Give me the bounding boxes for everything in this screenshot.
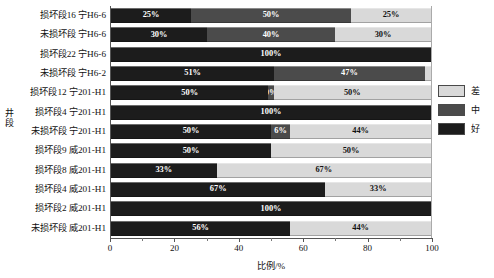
- bar-row[interactable]: 100%: [111, 199, 431, 218]
- bar-segment-label: 100%: [261, 205, 282, 213]
- plot-area: 25%50%25%30%40%30%100%51%47%2%50%0%50%10…: [110, 6, 432, 238]
- y-axis-tick-labels: 损坏段16 宁H6-6未损坏段 宁H6-6损坏段22 宁H6-6未损坏段 宁H6…: [14, 6, 108, 238]
- y-axis-tick-label: 损坏段12 宁201-H1: [30, 83, 106, 102]
- bar-segment-label: 56%: [192, 224, 209, 232]
- y-axis-tick-label: 损坏段9 威201-H1: [35, 141, 106, 160]
- bar-segment-label: 44%: [352, 224, 369, 232]
- bar-segment[interactable]: 67%: [111, 182, 325, 197]
- bar-segment-label: 6%: [274, 127, 287, 135]
- bar-segment[interactable]: 50%: [271, 143, 431, 158]
- legend-item[interactable]: 中: [438, 101, 490, 118]
- x-axis-minor-tick: [271, 238, 272, 241]
- bar-segment-label: 44%: [352, 127, 369, 135]
- bar-row[interactable]: 51%47%2%: [111, 64, 431, 83]
- y-axis-tick-label: 未损坏段 宁H6-2: [40, 64, 106, 83]
- bar-segment-label: 50%: [183, 147, 200, 155]
- legend-swatch: [438, 85, 465, 97]
- legend-item[interactable]: 好: [438, 120, 490, 137]
- bar-segment[interactable]: 47%: [274, 66, 424, 81]
- bar-segment[interactable]: 30%: [335, 27, 431, 42]
- bar-segment-label: 67%: [210, 185, 227, 193]
- bar-segment[interactable]: 50%: [111, 124, 271, 139]
- bar-segment[interactable]: 100%: [111, 105, 431, 120]
- bar-segment-label: 25%: [143, 11, 160, 19]
- y-axis-tick-label: 损坏段2 威201-H1: [35, 199, 106, 218]
- bar-row[interactable]: 50%50%: [111, 141, 431, 160]
- x-axis-tick-label: 100: [425, 243, 439, 253]
- y-axis-tick-label: 损坏段4 威201-H1: [35, 180, 106, 199]
- bar-segment[interactable]: 44%: [290, 124, 431, 139]
- bar-segment-label: 30%: [375, 31, 392, 39]
- x-axis-tick-label: 80: [363, 243, 372, 253]
- y-axis-tick-label: 未损坏段 威201-H1: [31, 219, 106, 238]
- bar-segment[interactable]: 50%: [191, 8, 351, 23]
- legend-item[interactable]: 差: [438, 82, 490, 99]
- x-axis-tick-label: 60: [299, 243, 308, 253]
- legend-swatch: [438, 104, 465, 116]
- bar-segment[interactable]: 2%: [425, 66, 431, 81]
- x-axis-tick-label: 0: [108, 243, 113, 253]
- x-axis-tick-label: 20: [170, 243, 179, 253]
- bar-segment-label: 51%: [184, 69, 201, 77]
- bar-row[interactable]: 100%: [111, 103, 431, 122]
- bar-segment[interactable]: 33%: [325, 182, 431, 197]
- bar-segment[interactable]: 25%: [111, 8, 191, 23]
- x-axis-tick-label: 40: [234, 243, 243, 253]
- x-axis-tick: [110, 238, 111, 242]
- bar-segment-label: 50%: [263, 11, 280, 19]
- bar-segment-label: 30%: [151, 31, 168, 39]
- bar-row[interactable]: 25%50%25%: [111, 6, 431, 25]
- bar-segment-label: 33%: [155, 166, 172, 174]
- bar-segment-label: 50%: [344, 89, 361, 97]
- legend-label: 差: [471, 84, 480, 97]
- x-axis-minor-tick: [207, 238, 208, 241]
- bar-segment[interactable]: 50%: [274, 85, 431, 100]
- bar-segment-label: 50%: [181, 89, 198, 97]
- bar-segment[interactable]: 33%: [111, 163, 217, 178]
- bar-row[interactable]: 67%33%: [111, 180, 431, 199]
- bar-segment-label: 67%: [315, 166, 332, 174]
- x-axis-tick: [432, 238, 433, 242]
- bar-segment-label: 25%: [383, 11, 400, 19]
- x-axis-tick: [368, 238, 369, 242]
- legend-swatch: [438, 123, 465, 135]
- bar-row[interactable]: 50%0%50%: [111, 83, 431, 102]
- bar-segment-label: 50%: [343, 147, 360, 155]
- bar-segment[interactable]: 40%: [207, 27, 335, 42]
- y-axis-tick-label: 未损坏段 宁H6-6: [40, 25, 106, 44]
- x-axis-minor-tick: [400, 238, 401, 241]
- x-axis-tick: [303, 238, 304, 242]
- y-axis-tick-label: 损坏段4 宁201-H1: [35, 103, 106, 122]
- chart-legend: 差中好: [438, 82, 490, 139]
- stacked-bar-chart: 井段 损坏段16 宁H6-6未损坏段 宁H6-6损坏段22 宁H6-6未损坏段 …: [0, 0, 494, 278]
- bar-segment[interactable]: 67%: [217, 163, 431, 178]
- bar-segment[interactable]: 30%: [111, 27, 207, 42]
- legend-label: 中: [471, 103, 480, 116]
- x-axis-title: 比例/%: [110, 258, 432, 272]
- x-axis-tick: [174, 238, 175, 242]
- bar-segment[interactable]: 51%: [111, 66, 274, 81]
- bar-row[interactable]: 50%6%44%: [111, 122, 431, 141]
- bar-segment[interactable]: 44%: [290, 221, 431, 236]
- x-axis-minor-tick: [142, 238, 143, 241]
- x-axis-minor-tick: [335, 238, 336, 241]
- bar-segment-label: 33%: [370, 185, 387, 193]
- y-axis-tick-label: 损坏段16 宁H6-6: [40, 6, 106, 25]
- bar-segment[interactable]: 100%: [111, 47, 431, 62]
- bar-segment[interactable]: 100%: [111, 201, 431, 216]
- bar-segment[interactable]: 25%: [351, 8, 431, 23]
- bar-row[interactable]: 33%67%: [111, 161, 431, 180]
- bar-row[interactable]: 56%44%: [111, 219, 431, 238]
- bar-row[interactable]: 30%40%30%: [111, 25, 431, 44]
- bar-row[interactable]: 100%: [111, 45, 431, 64]
- bar-segment[interactable]: 50%: [111, 85, 268, 100]
- x-axis: 020406080100: [110, 238, 432, 239]
- bar-segment[interactable]: 50%: [111, 143, 271, 158]
- bar-segment[interactable]: 6%: [271, 124, 290, 139]
- y-axis-tick-label: 损坏段22 宁H6-6: [40, 45, 106, 64]
- bar-segment-label: 100%: [261, 50, 282, 58]
- bar-segment[interactable]: 56%: [111, 221, 290, 236]
- bar-segment-label: 100%: [261, 108, 282, 116]
- bar-segment-label: 47%: [341, 69, 358, 77]
- bar-segment-label: 50%: [183, 127, 200, 135]
